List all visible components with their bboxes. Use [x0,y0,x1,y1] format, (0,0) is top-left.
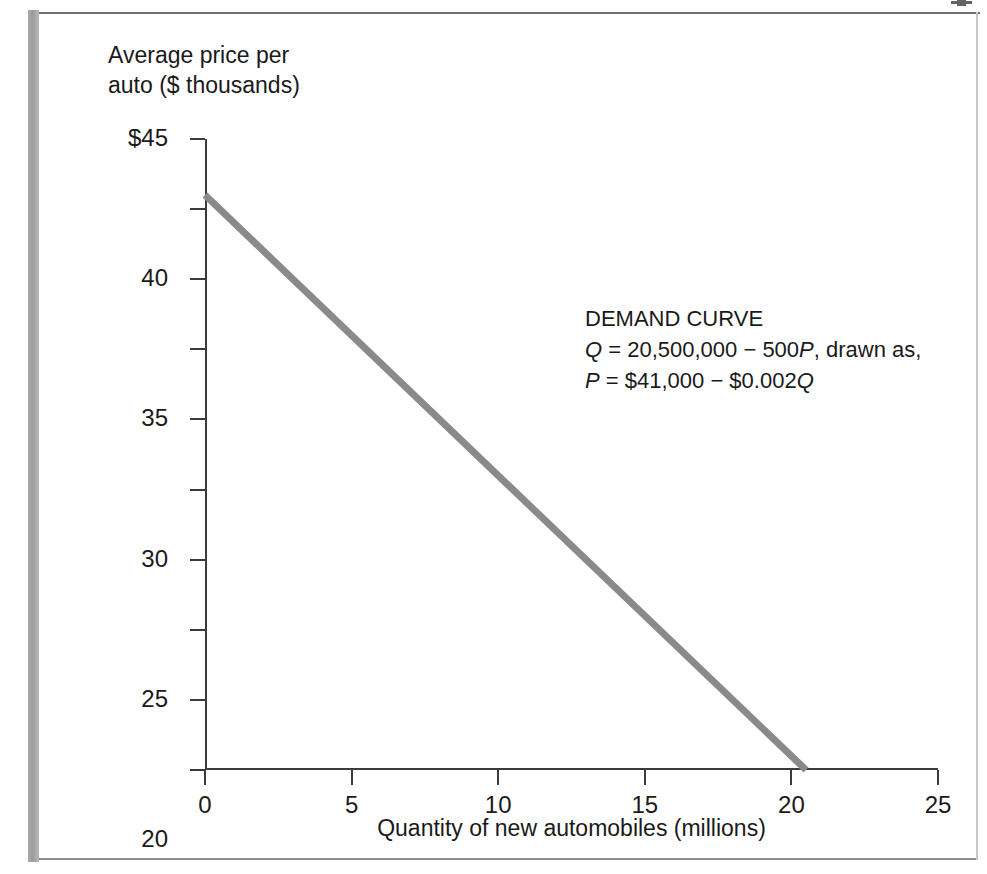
annotation-equation-quantity: Q = 20,500,000 − 500P, drawn as, [585,334,921,365]
y-tick-label-25: 25 [141,685,168,713]
equation-variable-q: Q [585,337,602,362]
y-tick-45: $45 [190,138,205,140]
page-left-gray-bar [28,10,39,862]
y-axis-title: Average price per auto ($ thousands) [108,40,300,100]
page-right-border [976,12,978,860]
x-axis-title: Quantity of new automobiles (millions) [205,815,938,842]
y-tick-label-40: 40 [141,264,168,292]
y-tick-30: 30 [190,348,205,350]
x-tick-5 [351,770,353,785]
equation-variable-p: P [585,368,600,393]
annotation-equation-price: P = $41,000 − $0.002Q [585,365,921,396]
equation-variable-p-inline: P [799,337,814,362]
x-tick-25 [937,770,939,785]
page-bottom-border [36,858,978,860]
y-tick-label-35: 35 [141,404,168,432]
x-tick-15 [644,770,646,785]
demand-curve-annotation: DEMAND CURVE Q = 20,500,000 − 500P, draw… [585,303,921,396]
equation-quantity-body: = 20,500,000 − 500 [602,337,799,362]
equation-price-body: = $41,000 − $0.002 [600,368,797,393]
y-tick-40: 40 [190,208,205,210]
y-tick-label-30: 30 [141,545,168,573]
y-tick-35: 35 [190,278,205,280]
equation-quantity-suffix: , drawn as, [814,337,922,362]
y-tick-10: 10 [190,629,205,631]
y-tick-0: 0 [190,769,205,771]
y-tick-label-45: $45 [128,124,168,152]
figure-page: Average price per auto ($ thousands) 051… [0,0,987,874]
annotation-heading: DEMAND CURVE [585,303,921,334]
y-tick-15: 15 [190,559,205,561]
demand-curve-line [205,195,806,770]
x-tick-10 [497,770,499,785]
x-tick-20 [790,770,792,785]
page-top-border [36,12,980,14]
demand-curve-chart [205,139,938,770]
equation-variable-q-inline: Q [797,368,814,393]
cropped-page-number [957,0,966,6]
y-tick-label-20: 20 [141,825,168,853]
y-tick-5: 5 [190,699,205,701]
plot-area: 0510152025303540$45 0510152025 [205,139,938,770]
y-tick-25: 25 [190,418,205,420]
x-tick-0 [204,770,206,785]
y-tick-20: 20 [190,489,205,491]
